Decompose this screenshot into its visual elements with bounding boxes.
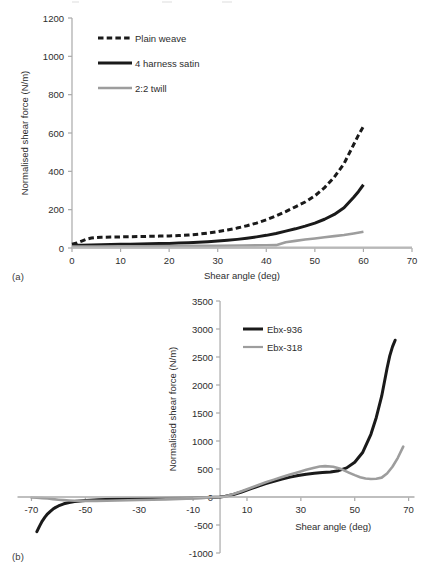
chart-b-plot: -1000-5000500100015002000250030003500-70… xyxy=(0,285,427,575)
chart-a-plot: 020040060080010001200010203040506070Shea… xyxy=(0,0,427,290)
y-tick-label: 400 xyxy=(48,166,64,177)
chart-panel-a: 020040060080010001200010203040506070Shea… xyxy=(0,0,427,290)
x-tick-label: 60 xyxy=(358,255,369,266)
legend-label-2: 2:2 twill xyxy=(135,83,167,94)
x-tick-label: 70 xyxy=(403,504,414,515)
x-tick-label: 70 xyxy=(407,255,418,266)
legend-label-1: Ebx-318 xyxy=(267,342,302,353)
y-tick-label: 500 xyxy=(197,464,213,475)
series-line-plain-weave xyxy=(72,126,363,244)
panel-label-a: (a) xyxy=(12,271,24,282)
legend-label-0: Plain weave xyxy=(135,33,186,44)
x-tick-label: 40 xyxy=(261,255,272,266)
y-tick-label: 3500 xyxy=(192,296,213,307)
x-tick-label: 30 xyxy=(296,504,307,515)
x-axis-title: Shear angle (deg) xyxy=(204,270,280,281)
y-axis-title: Normalised shear force (N/m) xyxy=(19,71,30,196)
y-tick-label: -1000 xyxy=(189,548,213,559)
y-tick-label: 1200 xyxy=(43,13,64,24)
x-tick-label: -70 xyxy=(25,504,39,515)
y-tick-label: 1000 xyxy=(43,51,64,62)
y-tick-label: 200 xyxy=(48,204,64,215)
chart-panel-b: -1000-5000500100015002000250030003500-70… xyxy=(0,285,427,575)
x-tick-label: 50 xyxy=(349,504,360,515)
legend-label-1: 4 harness satin xyxy=(135,58,199,69)
y-axis-title: Normalised shear force (N/m) xyxy=(167,347,178,472)
y-tick-label: 3000 xyxy=(192,324,213,335)
y-tick-label: 800 xyxy=(48,89,64,100)
x-tick-label: 20 xyxy=(164,255,175,266)
x-tick-label: 30 xyxy=(212,255,223,266)
x-axis-title: Shear angle (deg) xyxy=(295,521,371,532)
legend-label-0: Ebx-936 xyxy=(267,324,302,335)
y-tick-label: -500 xyxy=(194,520,213,531)
y-tick-label: 1000 xyxy=(192,436,213,447)
x-tick-label: 10 xyxy=(115,255,126,266)
x-tick-label: -30 xyxy=(132,504,146,515)
x-tick-label: -10 xyxy=(186,504,200,515)
x-tick-label: 0 xyxy=(69,255,74,266)
y-tick-label: 2000 xyxy=(192,380,213,391)
panel-label-b: (b) xyxy=(12,551,24,562)
series-line-ebx-318 xyxy=(31,447,403,501)
figure-container: 020040060080010001200010203040506070Shea… xyxy=(0,0,427,575)
x-tick-label: -50 xyxy=(78,504,92,515)
y-tick-label: 600 xyxy=(48,128,64,139)
y-tick-label: 2500 xyxy=(192,352,213,363)
series-line-ebx-936 xyxy=(37,340,395,532)
y-tick-label: 0 xyxy=(59,243,64,254)
x-tick-label: 10 xyxy=(242,504,253,515)
y-tick-label: 1500 xyxy=(192,408,213,419)
x-tick-label: 50 xyxy=(310,255,321,266)
